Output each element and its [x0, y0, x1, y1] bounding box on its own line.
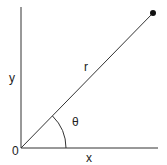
- y-axis-label: y: [9, 71, 15, 85]
- point-marker: [150, 10, 156, 16]
- radius-line: [21, 13, 153, 148]
- angle-label: θ: [72, 115, 79, 129]
- radius-label: r: [84, 60, 88, 74]
- origin-label: 0: [12, 144, 19, 158]
- polar-coordinate-diagram: y r θ x 0: [0, 0, 167, 165]
- angle-arc: [53, 116, 67, 148]
- x-axis-label: x: [86, 151, 92, 165]
